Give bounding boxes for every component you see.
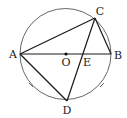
geometry-diagram: A B C O E D — [0, 0, 127, 118]
label-e: E — [83, 56, 91, 69]
label-a: A — [8, 48, 18, 61]
segment-bc — [95, 18, 111, 54]
diagram-svg: A B C O E D — [0, 0, 127, 118]
label-d: D — [63, 104, 72, 117]
label-b: B — [114, 49, 122, 62]
label-c: C — [96, 5, 104, 18]
label-o: O — [61, 56, 70, 69]
